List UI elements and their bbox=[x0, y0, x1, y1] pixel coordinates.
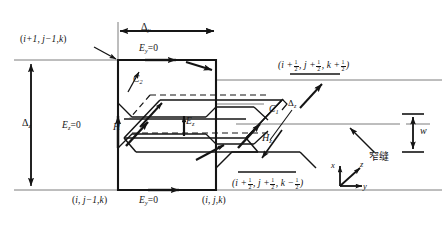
node-label-part: , j + bbox=[253, 178, 270, 188]
fraction-one-half: 12 bbox=[341, 60, 346, 73]
top-right-arrowhead bbox=[186, 62, 212, 70]
node-label-part: (i + bbox=[278, 60, 293, 70]
C1-label: C1 bbox=[269, 105, 279, 115]
axes-triad bbox=[340, 166, 362, 186]
H-upper-arrow bbox=[140, 103, 162, 127]
slit-leader bbox=[350, 128, 374, 152]
node-label-part: , k − bbox=[276, 178, 294, 188]
C2-label: C2 bbox=[133, 75, 143, 85]
delta-y-label: Δy bbox=[141, 22, 151, 33]
C1-leader bbox=[282, 99, 287, 110]
node-label-part: ) bbox=[300, 178, 303, 188]
H-left-label: H bbox=[113, 122, 120, 132]
figure-canvas: Δy Δz Δz w Ey=0 Ey=0 Ez=0 Ez H Hz C1 C2 bbox=[0, 0, 442, 228]
Ez-center-label: Ez bbox=[186, 117, 194, 127]
axis-z-label: z bbox=[360, 160, 363, 169]
Ey-top-label: Ey=0 bbox=[139, 44, 158, 54]
fraction-one-half: 12 bbox=[248, 178, 253, 191]
fraction-one-half: 12 bbox=[294, 60, 299, 73]
axis-y-label: y bbox=[363, 182, 367, 191]
node-label-upper-right: (i +12, j +12, k +12) bbox=[278, 60, 349, 73]
node-label-part: ) bbox=[346, 60, 349, 70]
fraction-one-half: 12 bbox=[316, 60, 321, 73]
delta-z-right-label: Δz bbox=[288, 99, 296, 110]
fraction-one-half: 12 bbox=[270, 178, 275, 191]
node-label-part: (i + bbox=[232, 178, 247, 188]
fraction-one-half: 12 bbox=[295, 178, 300, 191]
node-label-bottom-left: (i, j−1,k) bbox=[72, 196, 107, 206]
slit-pinch-outline bbox=[118, 103, 216, 148]
node-label-lower-right: (i +12, j +12, k −12) bbox=[232, 178, 303, 191]
Ey-bottom-label: Ey=0 bbox=[139, 196, 158, 206]
narrow-slit-label: 窄缝 bbox=[369, 152, 389, 162]
node-label-part: , k + bbox=[322, 60, 340, 70]
lower-right-plate bbox=[216, 152, 316, 168]
axis-x-label: x bbox=[331, 161, 335, 170]
node-label-top-left: (i+1, j−1,k) bbox=[20, 35, 67, 45]
delta-z-left-label: Δz bbox=[22, 118, 31, 129]
Ez-left-label: Ez=0 bbox=[62, 121, 81, 131]
Hz-right-label: Hz bbox=[262, 133, 272, 144]
node-leader-upper-right bbox=[290, 74, 340, 108]
node-label-bottom-center: (i, j,k) bbox=[202, 196, 226, 206]
node-leader-top-left bbox=[94, 47, 116, 59]
node-label-part: , j + bbox=[299, 60, 316, 70]
w-label: w bbox=[420, 126, 427, 136]
